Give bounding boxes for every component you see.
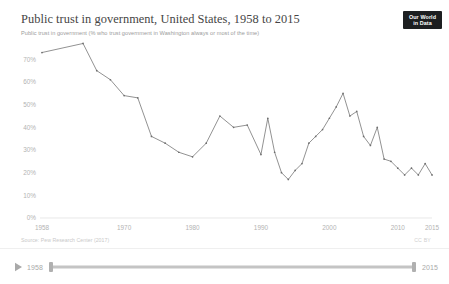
series-data-point[interactable]: [82, 43, 84, 45]
series-data-point[interactable]: [164, 142, 166, 144]
y-axis-tick-label: 40%: [23, 124, 36, 131]
timeline-control[interactable]: 1958 2015: [14, 258, 438, 276]
timeline-handle-start[interactable]: [49, 262, 53, 272]
timeline-end-year: 2015: [422, 264, 438, 271]
series-data-point[interactable]: [308, 142, 310, 144]
series-data-point[interactable]: [110, 79, 112, 81]
series-data-point[interactable]: [404, 174, 406, 176]
play-icon[interactable]: [14, 261, 25, 273]
x-axis-tick-label: 1980: [185, 224, 200, 231]
series-data-point[interactable]: [390, 160, 392, 162]
y-axis: 0%10%20%30%40%50%60%70%: [23, 56, 36, 222]
series-data-point[interactable]: [267, 117, 269, 119]
series-data-point[interactable]: [322, 129, 324, 131]
series-line-path[interactable]: [42, 43, 432, 179]
timeline-slider-track[interactable]: [49, 266, 416, 269]
plot-area: 0%10%20%30%40%50%60%70% 1958197019801990…: [0, 40, 449, 232]
series-data-point[interactable]: [205, 142, 207, 144]
series-data-point[interactable]: [335, 106, 337, 108]
series-data-point[interactable]: [260, 154, 262, 156]
series-data-point[interactable]: [246, 124, 248, 126]
line-chart-svg: 0%10%20%30%40%50%60%70% 1958197019801990…: [0, 40, 449, 232]
chart-title: Public trust in government, United State…: [21, 12, 381, 26]
series-data-point[interactable]: [431, 174, 433, 176]
x-axis-tick-label: 1958: [35, 224, 50, 231]
series-data-point[interactable]: [349, 115, 351, 117]
series-data-point[interactable]: [370, 145, 372, 147]
series-data-point[interactable]: [274, 151, 276, 153]
series-data-point[interactable]: [294, 170, 296, 172]
timeline-handle-end[interactable]: [412, 262, 416, 272]
chart-container: Public trust in government, United State…: [0, 0, 449, 284]
series-data-point[interactable]: [417, 174, 419, 176]
series-data-point[interactable]: [329, 117, 331, 119]
our-world-in-data-logo[interactable]: Our World in Data: [403, 11, 442, 29]
chart-subtitle: Public trust in government (% who trust …: [21, 29, 381, 37]
series-data-point[interactable]: [137, 97, 139, 99]
y-axis-tick-label: 70%: [23, 56, 36, 63]
series-data-point[interactable]: [178, 151, 180, 153]
y-axis-tick-label: 50%: [23, 101, 36, 108]
play-icon-glyph: [14, 262, 23, 272]
source-note[interactable]: Source: Pew Research Center (2017): [21, 237, 109, 243]
series-data-point[interactable]: [383, 158, 385, 160]
series-data-point[interactable]: [301, 163, 303, 165]
y-axis-tick-label: 0%: [27, 214, 37, 221]
series-data-point[interactable]: [287, 179, 289, 181]
logo-line-2: in Data: [413, 20, 432, 26]
series-data-point[interactable]: [192, 156, 194, 158]
timeline-slider[interactable]: [49, 261, 416, 273]
series-data-point[interactable]: [233, 126, 235, 128]
x-axis-tick-label: 1990: [254, 224, 269, 231]
data-series-trust[interactable]: [41, 43, 433, 181]
series-data-point[interactable]: [342, 92, 344, 94]
x-axis-tick-label: 2015: [425, 224, 440, 231]
timeline-start-year: 1958: [27, 264, 43, 271]
x-axis-tick-label: 2000: [322, 224, 337, 231]
x-axis-tick-label: 2010: [391, 224, 406, 231]
series-data-point[interactable]: [96, 70, 98, 72]
license-note[interactable]: CC BY: [414, 237, 431, 243]
series-data-point[interactable]: [397, 167, 399, 169]
series-data-point[interactable]: [151, 136, 153, 138]
series-data-point[interactable]: [315, 136, 317, 138]
chart-footer: Source: Pew Research Center (2017) CC BY: [21, 237, 431, 243]
series-data-point[interactable]: [376, 126, 378, 128]
chart-header: Public trust in government, United State…: [21, 12, 381, 37]
series-data-point[interactable]: [219, 115, 221, 117]
series-data-point[interactable]: [363, 136, 365, 138]
series-data-point[interactable]: [41, 52, 43, 54]
series-data-point[interactable]: [411, 167, 413, 169]
footer-divider: [0, 248, 449, 249]
series-data-point[interactable]: [424, 163, 426, 165]
series-data-point[interactable]: [356, 111, 358, 113]
x-axis-tick-label: 1970: [117, 224, 132, 231]
y-axis-tick-label: 30%: [23, 146, 36, 153]
x-axis: 1958197019801990200020102015: [35, 218, 440, 231]
y-axis-tick-label: 60%: [23, 78, 36, 85]
y-axis-tick-label: 20%: [23, 169, 36, 176]
y-axis-tick-label: 10%: [23, 192, 36, 199]
series-data-point[interactable]: [281, 172, 283, 174]
series-data-point[interactable]: [123, 95, 125, 97]
